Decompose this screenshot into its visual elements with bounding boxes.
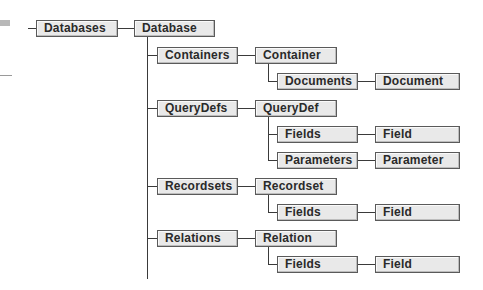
connector-line bbox=[358, 134, 375, 135]
node-parameter: Parameter bbox=[375, 152, 460, 169]
node-documents: Documents bbox=[277, 73, 358, 90]
node-recordset-field: Field bbox=[375, 204, 460, 221]
node-recordset-fields: Fields bbox=[277, 204, 358, 221]
node-relations: Relations bbox=[157, 230, 238, 247]
node-parameters: Parameters bbox=[277, 152, 358, 169]
connector-line bbox=[358, 160, 375, 161]
connector-line bbox=[118, 28, 134, 29]
connector-line bbox=[238, 238, 255, 239]
connector-line bbox=[238, 55, 255, 56]
node-relation: Relation bbox=[255, 230, 337, 247]
connector-line bbox=[147, 186, 157, 187]
page-edge-mark bbox=[0, 20, 10, 26]
connector-line bbox=[268, 212, 277, 213]
connector-line bbox=[358, 81, 375, 82]
node-document: Document bbox=[375, 73, 460, 90]
connector-line bbox=[268, 63, 269, 81]
connector-line bbox=[268, 194, 269, 212]
connector-line bbox=[268, 160, 277, 161]
node-querydef-field: Field bbox=[375, 126, 460, 143]
node-databases: Databases bbox=[36, 20, 118, 37]
node-recordset: Recordset bbox=[255, 178, 337, 195]
node-querydefs: QueryDefs bbox=[157, 100, 238, 117]
node-querydef-fields: Fields bbox=[277, 126, 358, 143]
connector-line bbox=[147, 108, 157, 109]
node-recordsets: Recordsets bbox=[157, 178, 238, 195]
connector-line bbox=[147, 55, 157, 56]
connector-line bbox=[268, 116, 269, 160]
connector-line bbox=[358, 212, 375, 213]
connector-line bbox=[238, 186, 255, 187]
node-database: Database bbox=[134, 20, 215, 37]
connector-line bbox=[28, 28, 36, 29]
connector-line bbox=[268, 134, 277, 135]
connector-line bbox=[358, 264, 375, 265]
node-relation-fields: Fields bbox=[277, 256, 358, 273]
page-edge-rule bbox=[0, 75, 12, 76]
connector-line bbox=[147, 238, 157, 239]
node-container: Container bbox=[255, 47, 337, 64]
connector-line bbox=[238, 108, 255, 109]
connector-line bbox=[268, 81, 277, 82]
connector-line bbox=[268, 264, 277, 265]
node-relation-field: Field bbox=[375, 256, 460, 273]
connector-line bbox=[147, 37, 148, 279]
node-containers: Containers bbox=[157, 47, 238, 64]
connector-line bbox=[268, 246, 269, 264]
node-querydef: QueryDef bbox=[255, 100, 337, 117]
